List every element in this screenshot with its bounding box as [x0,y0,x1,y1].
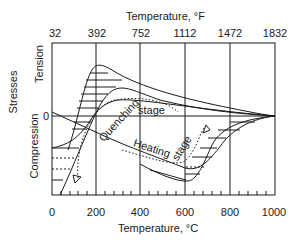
top-tick-0: 32 [49,27,61,39]
bottom-minor-ticks [61,191,266,195]
bottom-tick-2: 400 [131,206,149,218]
heating-curve-outer [52,112,275,169]
bottom-tick-5: 1000 [262,206,286,218]
top-tick-2: 752 [132,27,150,39]
bottom-axis-title: Temperature, °C [118,222,198,234]
top-tick-3: 1112 [174,27,197,39]
heating-curve-base [150,170,186,180]
heating-arrow-icon [203,125,210,133]
quenching-stage-label: stage [138,104,165,116]
top-tick-1: 392 [88,27,106,39]
quenching-arrow-icon [73,175,81,183]
plot-frame [52,43,275,195]
bottom-tick-4: 800 [221,206,239,218]
quench-dashed-hatching [52,158,75,169]
bottom-tick-0: 0 [49,206,55,218]
stress-temperature-diagram: Temperature, °F 32 392 752 1112 1472 183… [0,0,296,240]
top-tick-4: 1472 [218,27,242,39]
y-axis-title: Stresses [7,71,19,114]
bottom-tick-3: 600 [176,206,194,218]
heating-hatching [185,122,255,174]
tension-label: Tension [33,45,45,83]
compression-label: Compression [28,114,40,179]
top-tick-5: 1832 [263,27,287,39]
bottom-tick-1: 200 [87,206,105,218]
top-axis-title: Temperature, °F [126,10,205,22]
zero-label: 0 [43,110,49,122]
